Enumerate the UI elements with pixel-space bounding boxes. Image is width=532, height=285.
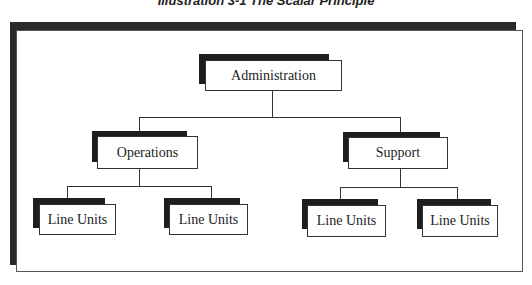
- connector-support-horizontal: [340, 187, 458, 188]
- node-label: Support: [376, 145, 420, 161]
- node-box: Line Units: [169, 204, 248, 235]
- connector-to-support: [400, 117, 401, 132]
- node-box: Administration: [205, 60, 342, 91]
- connector-to-operations: [139, 117, 140, 132]
- node-box: Line Units: [307, 205, 386, 237]
- connector-operations-down: [139, 168, 140, 186]
- figure-title: Illustration 3-1 The Scalar Principle: [0, 0, 532, 8]
- node-label: Line Units: [48, 212, 108, 228]
- connector-root-down: [272, 90, 273, 117]
- connector-operations-horizontal: [67, 186, 212, 187]
- node-label: Line Units: [179, 212, 239, 228]
- node-box: Line Units: [422, 205, 498, 237]
- node-box: Support: [348, 137, 448, 169]
- node-label: Operations: [117, 145, 178, 161]
- node-label: Administration: [231, 68, 316, 84]
- node-box: Operations: [97, 136, 198, 169]
- node-label: Line Units: [317, 213, 377, 229]
- connector-level2-horizontal: [139, 117, 401, 118]
- node-label: Line Units: [430, 213, 490, 229]
- node-box: Line Units: [39, 204, 116, 235]
- connector-support-down: [400, 168, 401, 187]
